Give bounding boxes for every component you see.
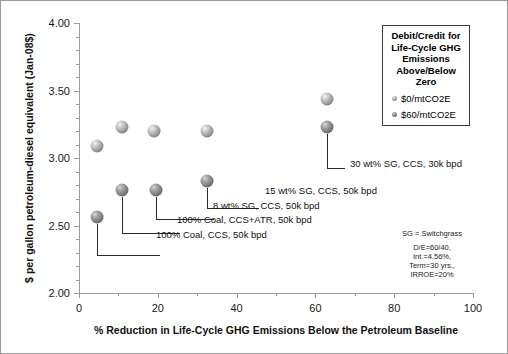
annotation-leader-line [97,255,160,256]
data-point [321,92,334,105]
legend-marker-icon [392,96,397,101]
data-point [90,211,103,224]
footnote-line: IRROE=20% [373,270,491,279]
y-tick-minor [76,253,79,254]
x-tick-minor [434,293,435,296]
data-point [149,184,162,197]
y-tick-label: 2.50 [49,220,70,232]
x-tick-minor [118,293,119,296]
annotation-leader-line [122,197,123,233]
x-tick-major [473,293,474,298]
annotation-label: 100% Coal, CCS, 50k bpd [156,229,267,240]
y-tick-minor [76,266,79,267]
y-tick-minor [76,239,79,240]
y-tick-minor [76,118,79,119]
footnote-block: SG = Switchgrass D/E=60/40, Int.=4.56%, … [373,229,491,279]
x-tick-minor [276,293,277,296]
data-point [201,174,214,187]
legend-title-line: Emissions [386,53,466,65]
y-tick-label: 4.00 [49,17,70,29]
data-point [116,184,129,197]
annotation-label: 8 wt% SG, CCS, 50k bpd [213,200,320,211]
y-tick-minor [76,280,79,281]
x-tick-minor [355,293,356,296]
y-axis-title: $ per gallon petroleum-diesel equivalent… [23,23,37,293]
x-tick-label: 60 [309,302,321,314]
legend-title-line: Above/Below [386,65,466,77]
footnote-line: Int.=4.56%, [373,252,491,261]
x-tick-major [79,293,80,298]
y-tick-minor [76,199,79,200]
annotation-leader-line [97,224,98,255]
x-tick-label: 80 [388,302,400,314]
x-axis-title: % Reduction in Life-Cycle GHG Emissions … [79,324,473,336]
x-tick-major [237,293,238,298]
annotation-leader-line [327,168,345,169]
annotation-label: 15 wt% SG, CCS, 50k bpd [265,185,377,196]
y-axis-line [79,23,80,293]
x-tick-label: 40 [230,302,242,314]
footnote-sg: SG = Switchgrass [373,229,491,238]
legend-title-line: Debit/Credit for [386,30,466,42]
data-point [90,139,103,152]
footnote-line: D/E=60/40, [373,243,491,252]
y-tick-minor [76,131,79,132]
y-tick-minor [76,185,79,186]
footnote-line: Term=30 yrs., [373,261,491,270]
y-tick-label: 3.50 [49,85,70,97]
legend-box: Debit/Credit for Life-Cycle GHG Emission… [382,25,470,126]
annotation-label: 30 wt% SG, CCS, 30k bpd [350,158,462,169]
y-tick-minor [76,64,79,65]
y-tick-major [74,226,79,227]
data-point [116,120,129,133]
legend-item: $0/mtCO2E [386,93,466,104]
data-point [147,125,160,138]
legend-item-label: $60/mtCO2E [401,109,456,120]
y-tick-major [74,91,79,92]
legend-title: Debit/Credit for Life-Cycle GHG Emission… [386,30,466,88]
y-tick-label: 2.00 [49,287,70,299]
y-tick-major [74,158,79,159]
x-tick-label: 0 [76,302,82,314]
annotation-leader-line [327,134,328,168]
y-tick-minor [76,50,79,51]
y-tick-minor [76,77,79,78]
legend-item: $60/mtCO2E [386,109,466,120]
x-tick-major [394,293,395,298]
annotation-leader-line [207,188,208,208]
legend-item-label: $0/mtCO2E [401,93,451,104]
y-tick-minor [76,37,79,38]
data-point [321,120,334,133]
y-tick-label: 3.00 [49,152,70,164]
y-tick-minor [76,172,79,173]
legend-marker-icon [392,112,397,117]
annotation-leader-line [156,197,157,219]
y-tick-major [74,23,79,24]
x-tick-label: 20 [152,302,164,314]
x-tick-label: 100 [464,302,482,314]
y-tick-minor [76,212,79,213]
annotation-label: 100% Coal, CCS+ATR, 50k bpd [177,214,312,225]
x-tick-minor [197,293,198,296]
x-tick-major [158,293,159,298]
y-tick-minor [76,104,79,105]
x-tick-major [315,293,316,298]
legend-title-line: Life-Cycle GHG [386,42,466,54]
chart-figure: $ per gallon petroleum-diesel equivalent… [0,0,508,354]
data-point [201,125,214,138]
legend-title-line: Zero [386,76,466,88]
y-tick-minor [76,145,79,146]
